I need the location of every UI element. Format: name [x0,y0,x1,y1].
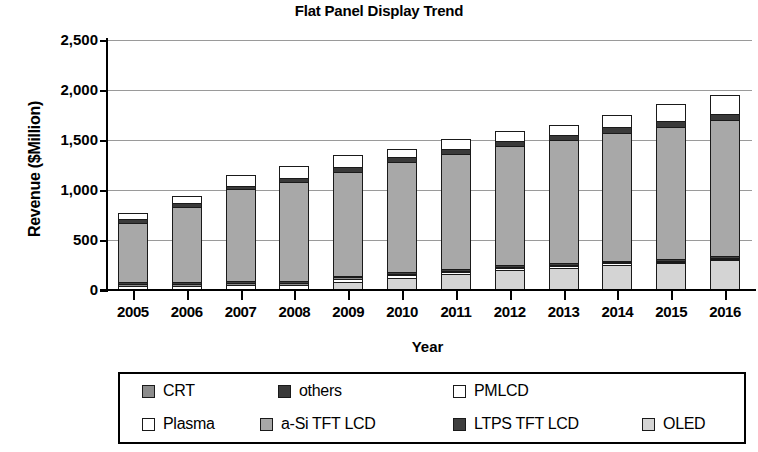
bar-segment-a-si-tft-lcd [173,207,201,283]
gridline [106,140,752,141]
bar-2012[interactable] [495,131,525,290]
x-tick-mark [725,291,727,300]
gridline [106,40,752,41]
bar-segment-oled [603,265,631,292]
y-axis-line [106,38,108,292]
y-tick-mark [100,190,107,192]
y-tick-mark [100,240,107,242]
legend-label: CRT [163,382,195,400]
bar-segment-pmlcd [280,166,308,180]
bar-segment-a-si-tft-lcd [657,127,685,260]
legend-label: Plasma [163,415,215,433]
legend-swatch-icon [142,418,155,431]
bar-2007[interactable] [226,175,256,290]
bar-segment-oled [657,263,685,292]
x-tick-label: 2016 [693,303,757,320]
legend-label: OLED [663,415,705,433]
plot-area [106,40,752,290]
x-tick-mark [187,291,189,300]
y-tick-label: 500 [36,231,98,248]
y-tick-mark [100,140,107,142]
y-tick-label: 2,500 [36,31,98,48]
chart-title: Flat Panel Display Trend [0,2,758,19]
bar-2005[interactable] [118,213,148,290]
gridline [106,90,752,91]
bar-2013[interactable] [549,125,579,290]
bar-2016[interactable] [710,95,740,290]
bar-segment-a-si-tft-lcd [388,162,416,273]
y-tick-label: 2,000 [36,81,98,98]
bar-segment-a-si-tft-lcd [227,189,255,282]
bar-segment-a-si-tft-lcd [334,172,362,277]
bar-2010[interactable] [387,149,417,290]
bar-segment-a-si-tft-lcd [603,133,631,262]
legend-label: LTPS TFT LCD [474,415,579,433]
legend-label: others [299,382,342,400]
legend-swatch-icon [453,418,466,431]
bar-segment-pmlcd [657,104,685,122]
bar-segment-a-si-tft-lcd [496,146,524,266]
legend-swatch-icon [142,385,155,398]
bar-2014[interactable] [602,115,632,290]
gridline [106,190,752,191]
bar-2006[interactable] [172,196,202,290]
legend-item-crt[interactable]: CRT [142,382,195,400]
x-tick-mark [294,291,296,300]
chart-container: Flat Panel Display Trend Revenue ($Milli… [0,0,758,452]
x-tick-mark [510,291,512,300]
y-tick-label: 1,500 [36,131,98,148]
y-tick-mark [100,90,107,92]
x-tick-mark [241,291,243,300]
legend-swatch-icon [278,385,291,398]
legend-item-a-si-tft-lcd[interactable]: a-Si TFT LCD [260,415,376,433]
bar-segment-a-si-tft-lcd [280,182,308,282]
bar-2009[interactable] [333,155,363,290]
x-tick-mark [617,291,619,300]
legend-swatch-icon [642,418,655,431]
x-tick-mark [402,291,404,300]
bar-segment-pmlcd [711,95,739,116]
legend-swatch-icon [260,418,273,431]
bar-segment-a-si-tft-lcd [119,223,147,283]
y-tick-label: 1,000 [36,181,98,198]
bar-segment-oled [711,260,739,291]
x-axis-line [100,289,756,291]
x-tick-mark [456,291,458,300]
y-axis-tick-labels: 05001,0001,5002,0002,500 [30,40,98,290]
legend-label: a-Si TFT LCD [281,415,376,433]
bar-segment-a-si-tft-lcd [442,154,470,270]
chart-legend: CRTothersPMLCDPlasmaa-Si TFT LCDLTPS TFT… [118,372,746,444]
x-tick-mark [133,291,135,300]
bar-segment-a-si-tft-lcd [550,140,578,264]
bar-segment-oled [496,270,524,291]
legend-row: CRTothersPMLCD [120,378,744,410]
legend-item-ltps-tft-lcd[interactable]: LTPS TFT LCD [453,415,579,433]
bar-segment-oled [550,268,578,292]
gridline [106,240,752,241]
x-tick-mark [564,291,566,300]
legend-item-others[interactable]: others [278,382,342,400]
legend-item-pmlcd[interactable]: PMLCD [453,382,529,400]
x-axis-title: Year [105,338,750,355]
y-tick-mark [100,40,107,42]
bar-segment-a-si-tft-lcd [711,120,739,257]
y-tick-label: 0 [36,281,98,298]
x-tick-mark [671,291,673,300]
y-tick-mark [100,290,107,292]
x-tick-mark [348,291,350,300]
legend-row: Plasmaa-Si TFT LCDLTPS TFT LCDOLED [120,411,744,443]
legend-swatch-icon [453,385,466,398]
legend-item-oled[interactable]: OLED [642,415,705,433]
bar-2015[interactable] [656,104,686,290]
bar-2008[interactable] [279,166,309,290]
legend-item-plasma[interactable]: Plasma [142,415,215,433]
bar-2011[interactable] [441,139,471,290]
legend-label: PMLCD [474,382,529,400]
